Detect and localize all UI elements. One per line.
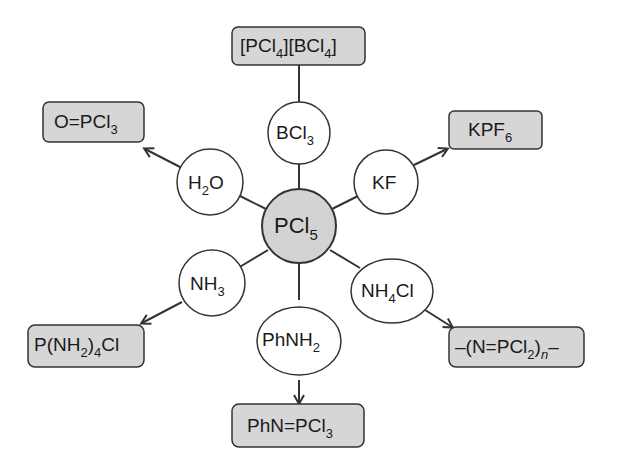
reagent-phnh2: PhNH2 (257, 307, 341, 375)
reagent-nh4cl: NH4Cl (351, 259, 433, 323)
product-o-pcl3: O=PCl3 (43, 102, 144, 142)
reagent-bcl3: BCl3 (268, 102, 330, 164)
svg-text:KF: KF (372, 172, 396, 193)
product-p-nh2-4-cl: P(NH2)4Cl (28, 325, 144, 367)
reagent-kf: KF (354, 150, 418, 214)
product-pcl4-bcl4: [PCl4][BCl4] (232, 27, 365, 65)
product-phn-pcl3: PhN=PCl3 (232, 404, 364, 447)
reaction-diagram: PCl5 BCl3 KF NH4Cl PhNH2 NH3 H2O [PCl4][… (0, 0, 619, 475)
center-pcl5: PCl5 (262, 189, 336, 263)
product-polyphosphazene: –(N=PCl2)n– (449, 327, 584, 367)
product-kpf6: KPF6 (449, 111, 542, 149)
reagent-h2o: H2O (177, 149, 243, 215)
reagent-nh3: NH3 (179, 250, 245, 316)
